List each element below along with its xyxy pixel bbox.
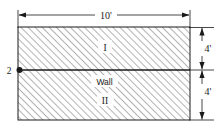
dimension-right-lower: 4' (189, 71, 214, 121)
dimension-top: 10' (18, 10, 190, 29)
dim-ru-arrow-top (199, 28, 204, 36)
wall-label: Wall (96, 77, 112, 87)
region-2: II (97, 93, 114, 106)
dim-right-upper-label: 4' (205, 43, 212, 54)
dim-ru-arrow-bottom (199, 62, 204, 70)
wall-text-group: Wall (91, 75, 118, 87)
region-1: I (98, 40, 112, 53)
diagram-canvas: I 2 Wall II 10 (0, 0, 221, 131)
dim-right-lower-label: 4' (205, 86, 212, 97)
region-1-label: I (103, 43, 106, 53)
wall-cross-section-diagram: I 2 Wall II 10 (0, 0, 221, 131)
node-point-2 (17, 67, 23, 73)
dim-top-label: 10' (100, 10, 112, 21)
dim-top-arrow-right (182, 12, 190, 17)
dim-top-arrow-left (19, 12, 27, 17)
region-2-label: II (102, 96, 108, 106)
dim-rl-arrow-bottom (199, 112, 204, 120)
node-label-2: 2 (7, 66, 12, 76)
dimension-right-upper: 4' (189, 28, 214, 71)
dim-rl-arrow-top (199, 71, 204, 79)
